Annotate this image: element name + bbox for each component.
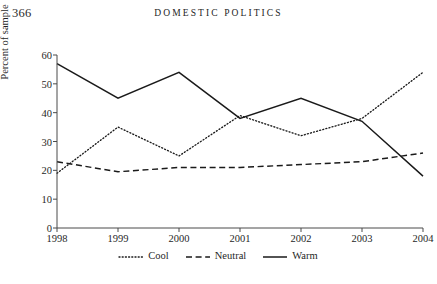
legend-item-cool: Cool [119,251,168,263]
series-line-neutral [57,153,423,172]
legend-label: Warm [292,251,317,263]
plot-area [57,55,423,228]
y-axis-label: Percent of sample [0,0,10,102]
y-tick-label: 0 [30,223,52,234]
legend-item-neutral: Neutral [186,251,247,263]
y-tick-label: 30 [30,136,52,147]
series-line-cool [57,72,423,173]
series-line-warm [57,64,423,176]
y-tick-label: 10 [30,194,52,205]
legend-item-warm: Warm [263,251,317,263]
x-tick-label: 1999 [95,233,141,244]
x-tick-label: 2003 [339,233,385,244]
legend-label: Cool [148,251,168,263]
x-tick-label: 2001 [217,233,263,244]
legend-label: Neutral [215,251,247,263]
plot-svg [57,55,423,228]
y-tick-label: 40 [30,107,52,118]
legend-swatch-warm-icon [263,252,287,261]
y-tick-label: 50 [30,78,52,89]
chart-legend: CoolNeutralWarm [0,251,437,263]
page-canvas: 366 Domestic Politics Percent of sample … [0,0,437,284]
y-tick-label: 20 [30,165,52,176]
legend-swatch-cool-icon [119,252,143,261]
line-chart: Percent of sample 0102030405060 19981999… [0,34,437,242]
y-tick-label: 60 [30,50,52,61]
x-tick-label: 2004 [400,233,437,244]
x-tick-label: 2002 [278,233,324,244]
legend-swatch-neutral-icon [186,252,210,261]
y-axis-tick-labels: 0102030405060 [26,55,52,228]
running-head: Domestic Politics [0,8,437,18]
x-tick-label: 1998 [34,233,80,244]
x-tick-label: 2000 [156,233,202,244]
